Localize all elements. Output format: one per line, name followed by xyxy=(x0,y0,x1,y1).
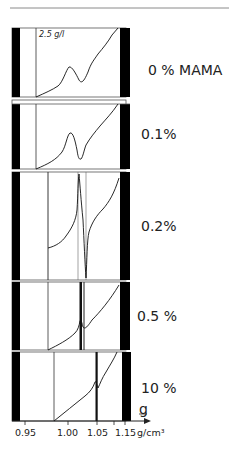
panel-10pct xyxy=(12,352,131,421)
panel-0.2pct xyxy=(12,172,130,280)
panel-0.1pct xyxy=(12,100,130,169)
panel-label-0.1pct: 0.1% xyxy=(141,126,177,142)
concentration-annotation: 2.5 g/l xyxy=(39,30,64,39)
x-tick-1.00: 1.00 xyxy=(57,427,78,438)
x-tick-1.05: 1.05 xyxy=(87,427,108,438)
gravity-arrow-label: g xyxy=(139,401,148,417)
panel-label-10pct: 10 % xyxy=(141,380,177,396)
right-black-bar xyxy=(120,28,130,97)
panel-label-0pct: 0 % MAMA xyxy=(148,62,222,78)
panel-label-0.2pct: 0.2% xyxy=(141,218,177,234)
x-tick-0.95: 0.95 xyxy=(15,427,36,438)
panel-label-0.5pct: 0.5 % xyxy=(137,308,177,324)
axis-arrow-icon xyxy=(144,418,151,424)
panel-0.5pct xyxy=(12,282,130,350)
panel-0pct xyxy=(12,28,130,97)
x-tick-1.15: 1.15 xyxy=(115,427,136,438)
left-black-bar xyxy=(12,28,20,97)
x-axis-unit: g/cm³ xyxy=(137,427,165,438)
